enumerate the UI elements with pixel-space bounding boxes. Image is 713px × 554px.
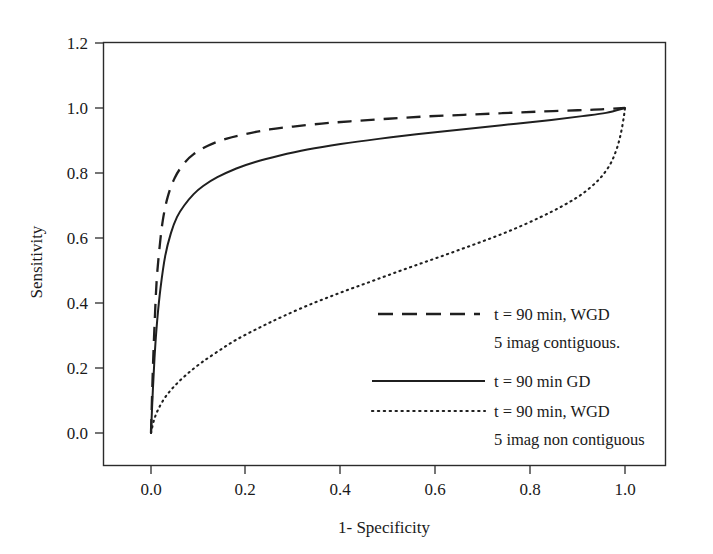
- x-tick-label-0.6: 0.6: [424, 480, 445, 499]
- legend-label-1-line2: 5 imag contiguous.: [494, 333, 620, 352]
- y-axis-title: Sensitivity: [27, 225, 46, 298]
- legend-label-2-line1: t = 90 min GD: [494, 372, 590, 391]
- y-tick-label-0.8: 0.8: [67, 164, 88, 183]
- y-tick-label-0.0: 0.0: [67, 424, 88, 443]
- x-tick-label-0.4: 0.4: [329, 480, 351, 499]
- x-tick-label-0.8: 0.8: [519, 480, 540, 499]
- roc-chart-svg: 1.2 1.0 0.8 0.6 0.4 0.2 0.0 0.0 0.2 0.4 …: [0, 0, 713, 554]
- y-tick-label-0.4: 0.4: [67, 294, 89, 313]
- legend-label-3-line1: t = 90 min, WGD: [494, 402, 610, 421]
- y-tick-label-0.6: 0.6: [67, 229, 88, 248]
- legend-label-1-line1: t = 90 min, WGD: [494, 305, 610, 324]
- x-tick-label-0.0: 0.0: [140, 480, 161, 499]
- y-tick-label-1.0: 1.0: [67, 99, 88, 118]
- chart-background: [0, 0, 713, 554]
- x-tick-label-1.0: 1.0: [614, 480, 635, 499]
- x-tick-label-0.2: 0.2: [234, 480, 255, 499]
- x-axis-title: 1- Specificity: [338, 518, 431, 537]
- y-tick-label-1.2: 1.2: [67, 34, 88, 53]
- y-tick-label-0.2: 0.2: [67, 359, 88, 378]
- legend-label-3-line2: 5 imag non contiguous: [494, 430, 645, 449]
- roc-chart-figure: 1.2 1.0 0.8 0.6 0.4 0.2 0.0 0.0 0.2 0.4 …: [0, 0, 713, 554]
